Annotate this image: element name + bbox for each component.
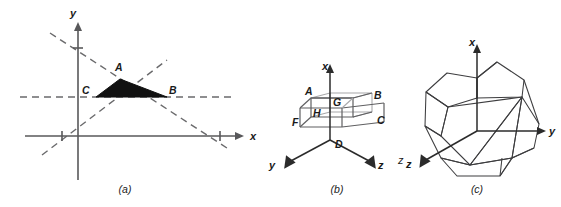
panel-c-face-left — [425, 92, 448, 136]
panel-c-face-top-right — [477, 62, 524, 98]
panel-b-y-axis — [289, 140, 330, 162]
panel-b-vertex-label-a: A — [304, 85, 313, 97]
panel-a-vertex-label-a: A — [114, 61, 123, 73]
panel-c: x y z (c) — [405, 36, 556, 195]
panel-b-stray-z-label: z — [397, 154, 404, 166]
panel-b-z-axis-label: z — [377, 159, 384, 171]
panel-a-y-axis-label: y — [69, 7, 77, 19]
panel-c-edge-right-side — [512, 148, 534, 158]
panel-c-y-axis-arrow — [537, 127, 546, 135]
panel-b-y-axis-arrow — [279, 153, 296, 169]
figure-svg: x y A B C (a) — [0, 0, 561, 207]
dashed-line-rising — [42, 60, 167, 155]
panel-a-x-axis-arrow — [235, 132, 244, 140]
panel-a-y-axis-arrow — [74, 22, 82, 31]
panel-b-vertex-label-b: B — [374, 89, 382, 101]
panel-c-edge-right-upper — [524, 80, 539, 124]
panel-a: x y A B C (a) — [20, 7, 257, 195]
panel-c-x-axis-label: x — [468, 36, 476, 48]
panel-a-x-axis-label: x — [249, 130, 257, 142]
panel-a-vertex-label-b: B — [169, 84, 177, 96]
panel-c-edge-top-ridge — [477, 62, 497, 78]
panel-b-box-edge-g-b — [353, 93, 372, 98]
panel-b-box-edge-a-f — [300, 98, 311, 108]
panel-b-box-edge-front-c — [353, 112, 372, 117]
panel-c-caption: (c) — [471, 183, 483, 195]
panel-b-vertex-label-d: D — [335, 138, 343, 150]
panel-a-caption: (a) — [119, 183, 132, 195]
panel-b-caption: (b) — [331, 183, 344, 195]
figure-container: x y A B C (a) — [0, 0, 561, 207]
panel-c-z-axis — [424, 131, 477, 161]
panel-b-vertex-label-g: G — [333, 96, 341, 108]
panel-c-z-axis-arrow — [414, 152, 431, 168]
panel-c-z-axis-label: z — [405, 158, 412, 170]
shaded-triangle — [96, 79, 167, 97]
panel-b-x-axis-label: x — [321, 60, 329, 72]
panel-b-y-axis-label: y — [268, 159, 276, 171]
panel-c-face-upper-left — [426, 73, 477, 107]
panel-b-vertex-label-c: C — [377, 114, 385, 126]
panel-b: x y z z A B C D F G H (b) — [268, 60, 404, 195]
panel-a-vertex-label-c: C — [82, 84, 90, 96]
panel-c-face-right-lower — [512, 97, 539, 158]
panel-b-vertex-label-f: F — [292, 116, 299, 128]
panel-b-vertex-label-h: H — [313, 107, 321, 119]
panel-b-box-edge-h-f — [300, 117, 311, 127]
panel-c-y-axis-label: y — [548, 125, 556, 137]
